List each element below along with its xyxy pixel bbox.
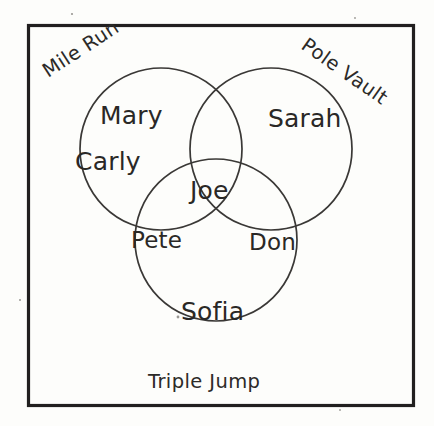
member-mary: Mary	[100, 101, 163, 130]
scan-speck	[339, 409, 341, 411]
scan-speck	[354, 17, 356, 19]
member-sarah: Sarah	[268, 104, 342, 133]
member-carly: Carly	[75, 147, 141, 176]
set-label-triple-jump: Triple Jump	[147, 370, 260, 393]
member-don: Don	[249, 229, 296, 255]
member-pete: Pete	[131, 227, 182, 253]
scan-speck	[19, 299, 21, 301]
venn-diagram-page: Mile Run Pole Vault Triple Jump Mary Car…	[0, 0, 434, 426]
circle-pole-vault	[190, 68, 352, 230]
sofia-leading-mark	[177, 316, 180, 319]
scan-speck	[71, 13, 73, 15]
set-label-pole-vault: Pole Vault	[297, 33, 392, 109]
member-sofia: Sofia	[181, 297, 244, 326]
venn-diagram-canvas: Mile Run Pole Vault Triple Jump Mary Car…	[0, 0, 434, 426]
member-joe: Joe	[188, 176, 229, 205]
